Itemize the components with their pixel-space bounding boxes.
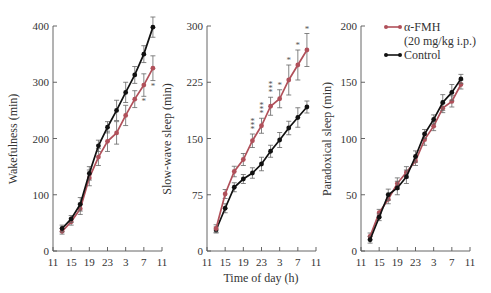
data-point xyxy=(232,185,237,190)
data-point xyxy=(295,63,300,68)
x-tick-label: 11 xyxy=(311,256,322,268)
data-point xyxy=(449,90,454,95)
data-point xyxy=(151,25,156,30)
legend-label-dose: (20 mg/kg i.p.) xyxy=(404,34,476,48)
significance-marker: * xyxy=(268,79,273,89)
x-tick-label: 19 xyxy=(392,256,404,268)
x-tick-label: 19 xyxy=(84,256,96,268)
data-point xyxy=(223,192,228,197)
data-point xyxy=(431,124,436,129)
data-point xyxy=(223,206,228,211)
x-tick-label: 7 xyxy=(449,256,455,268)
data-point xyxy=(114,108,119,113)
x-tick-label: 7 xyxy=(141,256,147,268)
data-point xyxy=(96,143,101,148)
paradoxical-sleep-axis-label: Paradoxical sleep (min) xyxy=(320,82,334,196)
legend-label-afmh: α-FMH xyxy=(404,20,441,34)
data-point xyxy=(422,132,427,137)
x-tick-label: 15 xyxy=(374,256,386,268)
x-tick-label: 15 xyxy=(220,256,232,268)
data-point xyxy=(214,226,219,231)
y-tick-label: 200 xyxy=(341,20,358,32)
slow-wave-sleep-panel: 075150225300111519233711************* xyxy=(187,20,322,268)
data-point xyxy=(60,226,65,231)
slow-wave-sleep-axis-label: Slow-wave sleep (min) xyxy=(160,83,174,194)
data-point xyxy=(305,48,310,53)
significance-marker: * xyxy=(151,81,156,91)
x-tick-label: 3 xyxy=(123,256,129,268)
significance-marker: * xyxy=(296,40,301,50)
y-tick-label: 200 xyxy=(33,133,50,145)
y-tick-label: 50 xyxy=(346,189,358,201)
significance-marker: * xyxy=(287,55,292,65)
data-point xyxy=(141,52,146,57)
data-point xyxy=(386,192,391,197)
x-tick-label: 3 xyxy=(277,256,283,268)
y-tick-label: 75 xyxy=(192,189,204,201)
y-tick-label: 150 xyxy=(187,133,204,145)
data-point xyxy=(78,202,83,207)
y-tick-label: 150 xyxy=(341,76,358,88)
data-point xyxy=(105,139,110,144)
x-tick-label: 19 xyxy=(238,256,250,268)
data-point xyxy=(268,104,273,109)
data-point xyxy=(105,125,110,130)
data-point xyxy=(268,149,273,154)
data-point xyxy=(232,169,237,174)
data-point xyxy=(404,174,409,179)
data-point xyxy=(250,138,255,143)
data-point xyxy=(241,157,246,162)
significance-marker: * xyxy=(142,96,147,106)
significance-marker: * xyxy=(305,24,310,34)
legend-label-control: Control xyxy=(404,48,441,62)
data-point xyxy=(259,162,264,167)
x-tick-label: 23 xyxy=(102,256,114,268)
data-point xyxy=(277,96,282,101)
data-point xyxy=(295,115,300,120)
legend-item-control: Control xyxy=(384,48,441,62)
data-point xyxy=(259,123,264,128)
significance-marker: * xyxy=(250,116,255,126)
y-tick-label: 100 xyxy=(33,189,50,201)
data-point xyxy=(69,217,74,222)
x-tick-label: 23 xyxy=(410,256,422,268)
data-point xyxy=(123,90,128,95)
x-tick-label: 23 xyxy=(256,256,268,268)
x-tick-label: 11 xyxy=(202,256,213,268)
significance-marker: * xyxy=(277,80,282,90)
x-tick-label: 3 xyxy=(431,256,437,268)
x-tick-label: 11 xyxy=(356,256,367,268)
y-tick-label: 100 xyxy=(341,133,358,145)
wakefulness-panel: 0100200300400111519233711** xyxy=(33,17,168,268)
data-point xyxy=(241,177,246,182)
data-point xyxy=(132,73,137,78)
data-point xyxy=(440,100,445,105)
data-point xyxy=(368,237,373,242)
x-tick-label: 11 xyxy=(157,256,168,268)
data-point xyxy=(377,215,382,220)
data-point xyxy=(141,83,146,88)
y-tick-label: 400 xyxy=(33,20,50,32)
data-point xyxy=(395,186,400,191)
data-point xyxy=(151,66,156,71)
y-tick-label: 300 xyxy=(33,76,50,88)
data-point xyxy=(286,126,291,131)
data-point xyxy=(459,76,464,81)
data-point xyxy=(96,155,101,160)
data-point xyxy=(114,130,119,135)
data-point xyxy=(87,171,92,176)
y-tick-label: 225 xyxy=(187,76,204,88)
data-point xyxy=(132,97,137,102)
data-point xyxy=(250,171,255,176)
x-tick-label: 15 xyxy=(66,256,78,268)
significance-marker: * xyxy=(259,100,264,110)
figure: 0100200300400111519233711** 075150225300… xyxy=(0,0,491,293)
x-tick-label: 11 xyxy=(465,256,476,268)
wakefulness-axis-label: Wakefulness (min) xyxy=(6,94,20,185)
time-of-day-axis-label: Time of day (h) xyxy=(223,271,298,285)
data-point xyxy=(277,138,282,143)
x-tick-label: 11 xyxy=(48,256,59,268)
series-line xyxy=(216,50,307,229)
data-point xyxy=(431,117,436,122)
data-point xyxy=(305,105,310,110)
